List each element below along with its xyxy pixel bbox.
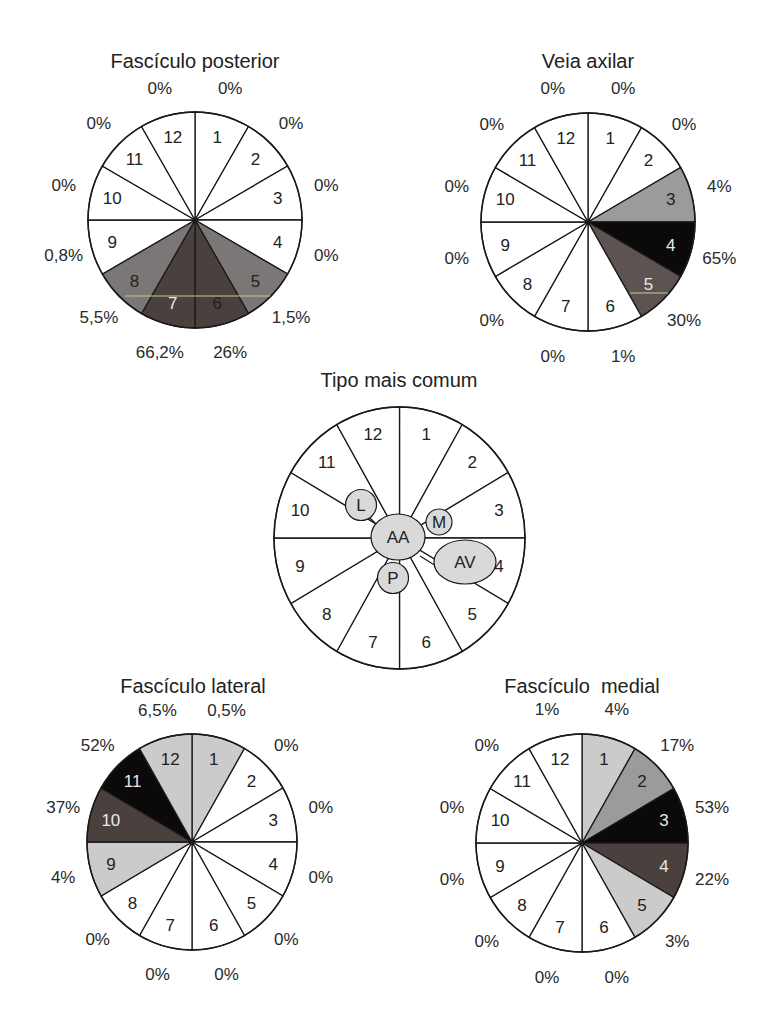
sector-number: 1: [212, 128, 221, 147]
sector-percentage: 4%: [707, 177, 732, 196]
sector-number: 3: [268, 811, 277, 830]
sector-percentage: 0%: [440, 798, 465, 817]
sector-number: 9: [295, 557, 304, 576]
sector-percentage: 66,2%: [136, 343, 184, 362]
sector-number: 3: [494, 501, 503, 520]
sector-number: 12: [161, 750, 180, 769]
sector-number: 4: [659, 857, 668, 876]
sector-percentage: 0%: [85, 930, 110, 949]
sector-number: 8: [517, 896, 526, 915]
sector-number: 11: [513, 772, 531, 791]
sector-number: 11: [519, 151, 537, 170]
bubble-P: P: [378, 563, 409, 594]
sector-percentage: 0%: [672, 115, 697, 134]
sector-percentage: 0%: [541, 347, 566, 366]
sector-number: 4: [268, 855, 277, 874]
svg-text:M: M: [432, 513, 446, 532]
sector-percentage: 30%: [667, 311, 701, 330]
sector-number: 8: [322, 605, 331, 624]
sector-percentage: 0%: [480, 311, 505, 330]
sector-number: 12: [551, 750, 570, 769]
sector-number: 6: [605, 297, 614, 316]
sector-percentage: 65%: [702, 249, 736, 268]
sector-number: 2: [468, 453, 477, 472]
sector-number: 2: [247, 772, 256, 791]
sector-percentage: 0%: [145, 965, 170, 984]
sector-percentage: 17%: [660, 736, 694, 755]
sector-percentage: 0%: [444, 177, 469, 196]
sector-number: 7: [561, 297, 570, 316]
sector-number: 3: [659, 811, 668, 830]
chart-title: Fascículo medial: [504, 675, 660, 697]
sector-percentage: 0,5%: [207, 701, 246, 720]
sector-percentage: 0%: [535, 968, 560, 987]
sector-percentage: 0%: [218, 79, 243, 98]
sector-percentage: 26%: [213, 343, 247, 362]
bubble-AV: AV: [434, 540, 496, 584]
sector-percentage: 6,5%: [138, 701, 177, 720]
sector-number: 5: [644, 275, 653, 294]
chart-fasciculo-medial: Fascículo medial 1234567891011124%17%53%…: [440, 675, 729, 987]
sector-number: 9: [106, 855, 115, 874]
sector-number: 9: [108, 233, 117, 252]
sector-percentage: 0%: [480, 115, 505, 134]
sector-number: 3: [273, 189, 282, 208]
sector-percentage: 0%: [605, 968, 630, 987]
sector-percentage: 22%: [695, 870, 729, 889]
sector-number: 6: [212, 294, 221, 313]
chart-fasciculo-posterior: Fascículo posterior 1234567891011120%0%0…: [44, 50, 338, 362]
sector-number: 1: [599, 750, 608, 769]
sector-percentage: 0%: [148, 79, 173, 98]
sector-number: 6: [209, 916, 218, 935]
sector-percentage: 52%: [81, 736, 115, 755]
sector-number: 7: [166, 916, 175, 935]
sector-percentage: 0%: [309, 798, 334, 817]
sector-number: 1: [421, 425, 430, 444]
sector-percentage: 0%: [309, 868, 334, 887]
sector-percentage: 0%: [475, 736, 500, 755]
sector-number: 2: [637, 772, 646, 791]
sector-percentage: 0%: [444, 249, 469, 268]
svg-text:AV: AV: [454, 553, 476, 572]
sector-percentage: 0%: [541, 79, 566, 98]
sector-number: 9: [495, 857, 504, 876]
bubble-AA: AA: [371, 514, 425, 560]
sector-number: 6: [599, 918, 608, 937]
sector-percentage: 0%: [314, 176, 339, 195]
sector-number: 11: [124, 772, 142, 791]
sector-percentage: 0%: [279, 114, 304, 133]
sector-number: 7: [555, 918, 564, 937]
sector-number: 10: [103, 189, 122, 208]
pie-sectors: [481, 113, 695, 331]
svg-text:AA: AA: [387, 528, 410, 547]
chart-title: Fascículo posterior: [111, 50, 280, 72]
svg-text:L: L: [356, 496, 365, 515]
sector-number: 12: [363, 425, 382, 444]
sector-number: 2: [251, 150, 260, 169]
chart-title: Fascículo lateral: [120, 675, 266, 697]
sector-percentage: 1%: [535, 700, 560, 719]
sector-number: 8: [128, 894, 137, 913]
sector-number: 10: [291, 501, 310, 520]
sector-number: 5: [468, 605, 477, 624]
chart-fasciculo-lateral: Fascículo lateral 1234567891011120,5%0%0…: [46, 675, 333, 984]
sector-number: 11: [318, 453, 336, 472]
sector-percentage: 4%: [51, 868, 76, 887]
sector-percentage: 0%: [214, 965, 239, 984]
sector-percentage: 53%: [695, 798, 729, 817]
sector-number: 1: [605, 129, 614, 148]
chart-title: Tipo mais comum: [320, 369, 477, 391]
sector-percentage: 0%: [274, 930, 299, 949]
sector-percentage: 3%: [665, 932, 690, 951]
sector-number: 4: [273, 233, 282, 252]
sector-number: 5: [637, 896, 646, 915]
pie-sectors: [87, 734, 297, 950]
sector-percentage: 0%: [440, 870, 465, 889]
sector-number: 4: [666, 236, 675, 255]
sector-percentage: 37%: [46, 798, 80, 817]
pie-sectors: [476, 734, 688, 952]
sector-number: 1: [209, 750, 218, 769]
chart-tipo-mais-comum: Tipo mais comum 123456789101112 L M AV: [274, 369, 525, 669]
figure: Fascículo posterior 1234567891011120%0%0…: [0, 0, 783, 1025]
sector-number: 8: [130, 272, 139, 291]
